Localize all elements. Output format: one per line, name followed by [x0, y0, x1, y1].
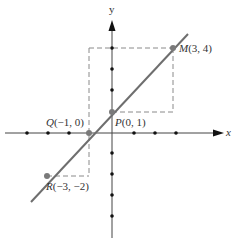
label-p: P(0, 1): [114, 116, 146, 129]
x-axis-arrow-icon: [213, 130, 224, 137]
label-q-name: Q: [46, 116, 54, 128]
label-q: Q(−1, 0): [46, 116, 84, 129]
point-q: [86, 130, 92, 136]
label-q-coords: (−1, 0): [54, 116, 84, 129]
y-axis-label: y: [109, 3, 115, 15]
label-m-coords: (3, 4): [188, 42, 212, 55]
point-r: [44, 173, 50, 179]
point-p: [109, 109, 115, 115]
y-axis: [109, 20, 116, 238]
label-p-coords: (0, 1): [122, 116, 146, 129]
coordinate-plane: x y M(3, 4) P(0, 1) Q(−1, 0) R(−3, −2): [0, 0, 234, 245]
y-axis-arrow-icon: [109, 20, 116, 31]
label-r-coords: (−3, −2): [53, 180, 90, 193]
tick-marks: [25, 46, 178, 218]
label-m: M(3, 4): [178, 42, 212, 55]
label-r: R(−3, −2): [45, 180, 89, 193]
point-m: [170, 45, 176, 51]
x-axis-label: x: [225, 126, 231, 138]
x-axis: [5, 130, 224, 137]
